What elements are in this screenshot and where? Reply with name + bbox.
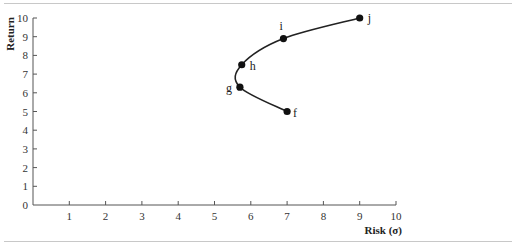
y-tick-label: 10: [17, 12, 29, 24]
x-tick-label: 1: [67, 210, 73, 222]
y-tick-label: 3: [23, 143, 29, 155]
point-h: [238, 61, 245, 68]
axes: 12345678910012345678910: [17, 12, 402, 222]
x-tick-label: 2: [103, 210, 109, 222]
risk-return-chart: 12345678910012345678910 fghij Return Ris…: [0, 0, 526, 247]
point-label-g: g: [226, 81, 232, 95]
x-axis-title: Risk (σ): [365, 224, 403, 237]
x-tick-label: 6: [248, 210, 254, 222]
x-tick-label: 8: [321, 210, 327, 222]
point-i: [280, 35, 287, 42]
point-label-f: f: [293, 106, 297, 120]
data-points: fghij: [226, 11, 371, 120]
x-tick-label: 4: [175, 210, 181, 222]
x-tick-label: 5: [212, 210, 218, 222]
y-tick-label: 5: [23, 106, 29, 118]
y-tick-label: 6: [23, 87, 29, 99]
x-tick-label: 3: [139, 210, 145, 222]
point-label-j: j: [367, 11, 371, 25]
y-tick-label: 2: [23, 162, 29, 174]
y-tick-label: 9: [23, 31, 29, 43]
y-tick-label: 7: [23, 68, 29, 80]
y-tick-label: 1: [23, 180, 29, 192]
y-tick-label: 4: [23, 124, 29, 136]
y-tick-label: 8: [23, 49, 29, 61]
point-f: [284, 108, 291, 115]
y-axis-title: Return: [4, 17, 16, 51]
x-tick-label: 9: [357, 210, 363, 222]
point-label-h: h: [250, 59, 256, 73]
point-label-i: i: [279, 19, 283, 33]
y-tick-label: 0: [23, 199, 29, 211]
x-tick-label: 7: [284, 210, 290, 222]
x-tick-label: 10: [391, 210, 403, 222]
point-j: [356, 14, 363, 21]
point-g: [236, 84, 243, 91]
